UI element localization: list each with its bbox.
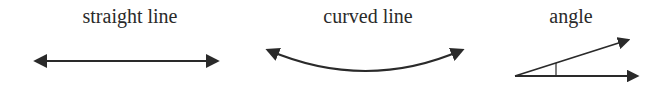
angle-upper-ray-arrow-icon xyxy=(515,40,628,76)
curved-double-arrow-icon xyxy=(268,50,462,71)
angle-figure xyxy=(515,40,637,76)
curved-line-figure xyxy=(268,50,462,71)
diagram-figures xyxy=(0,0,665,89)
